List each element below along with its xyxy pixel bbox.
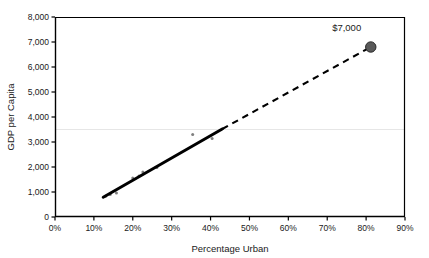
y-axis-tick-label: 2,000: [28, 162, 50, 172]
y-axis-tick-label: 6,000: [28, 62, 50, 72]
y-axis-tick-label: 3,000: [28, 137, 50, 147]
y-axis-tick-label: 7,000: [28, 37, 50, 47]
x-axis-tick-label: 20%: [124, 223, 141, 233]
gdp-vs-urbanization-chart: 01,0002,0003,0004,0005,0006,0007,0008,00…: [0, 0, 429, 258]
x-axis-tick-label: 50%: [241, 223, 258, 233]
y-axis-tick-label: 0: [44, 212, 49, 222]
series-3: [366, 42, 376, 52]
x-axis-tick-label: 90%: [396, 223, 413, 233]
y-axis-tick-label: 1,000: [28, 187, 50, 197]
data-point-annotation: $7,000: [332, 22, 361, 33]
y-axis-tick-label: 8,000: [28, 12, 50, 22]
x-axis-tick-label: 60%: [280, 223, 297, 233]
data-point: [211, 137, 214, 140]
x-axis-title: Percentage Urban: [191, 243, 268, 254]
x-axis-tick-label: 30%: [163, 223, 180, 233]
data-point: [191, 133, 194, 136]
x-axis-tick-label: 10%: [85, 223, 102, 233]
highlight-data-point: [366, 42, 376, 52]
x-axis-tick-label: 70%: [319, 223, 336, 233]
chart-canvas: 01,0002,0003,0004,0005,0006,0007,0008,00…: [0, 0, 429, 258]
y-axis-tick-label: 5,000: [28, 87, 50, 97]
x-axis-tick-label: 40%: [202, 223, 219, 233]
x-axis-tick-label: 0%: [49, 223, 62, 233]
annotations-group: $7,000: [332, 22, 361, 33]
y-axis-title: GDP per Capita: [5, 83, 16, 151]
y-axis-tick-label: 4,000: [28, 112, 50, 122]
x-axis-tick-label: 80%: [358, 223, 375, 233]
